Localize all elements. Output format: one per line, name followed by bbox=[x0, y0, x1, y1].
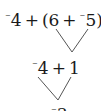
edge-6-to-1 bbox=[56, 29, 72, 52]
operand: 4 bbox=[38, 58, 49, 78]
plus-operator: + bbox=[62, 10, 76, 30]
expression-row-2: ⁻3 bbox=[51, 103, 68, 111]
close-paren: ) bbox=[96, 10, 101, 30]
operand: 4 bbox=[11, 10, 22, 30]
result-operand: 3 bbox=[57, 104, 68, 111]
expression-row-0: ⁻4+(6+⁻5) bbox=[5, 9, 101, 29]
edge-neg5-to-1 bbox=[72, 29, 88, 52]
expression-row-1: ⁻4+1 bbox=[32, 57, 80, 77]
operand: 1 bbox=[69, 58, 80, 78]
edge-1-to-neg3 bbox=[58, 77, 71, 100]
operand: 5 bbox=[85, 10, 96, 30]
operand: 6 bbox=[49, 10, 60, 30]
open-paren: ( bbox=[42, 10, 49, 30]
edge-neg4-to-neg3 bbox=[38, 77, 58, 100]
plus-operator: + bbox=[52, 58, 66, 78]
plus-operator: + bbox=[25, 10, 39, 30]
